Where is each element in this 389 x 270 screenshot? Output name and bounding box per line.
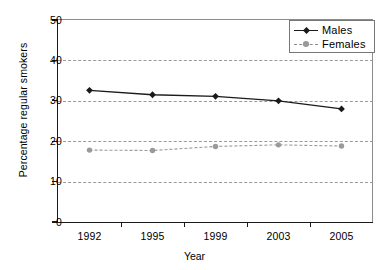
diamond-marker-icon xyxy=(302,26,309,33)
line-chart: 01020304050 19921995199920032005 Percent… xyxy=(0,0,389,270)
legend-item-males[interactable]: Males xyxy=(290,23,374,37)
data-point-females-1999[interactable] xyxy=(213,144,218,149)
data-point-males-2003[interactable] xyxy=(275,97,282,104)
data-point-females-1992[interactable] xyxy=(87,147,92,152)
circle-marker-icon xyxy=(303,41,309,47)
legend-swatch-males xyxy=(294,24,318,36)
data-point-females-1995[interactable] xyxy=(150,148,155,153)
data-point-females-2005[interactable] xyxy=(339,143,344,148)
data-point-males-1999[interactable] xyxy=(212,93,219,100)
legend-label-females: Females xyxy=(318,38,366,50)
chart-legend: Males Females xyxy=(289,20,375,53)
data-point-females-2003[interactable] xyxy=(276,142,281,147)
legend-item-females[interactable]: Females xyxy=(290,37,374,51)
legend-swatch-females xyxy=(294,38,318,50)
data-point-males-1995[interactable] xyxy=(149,91,156,98)
data-point-males-2005[interactable] xyxy=(338,105,345,112)
legend-label-males: Males xyxy=(318,24,352,36)
data-point-males-1992[interactable] xyxy=(86,87,93,94)
